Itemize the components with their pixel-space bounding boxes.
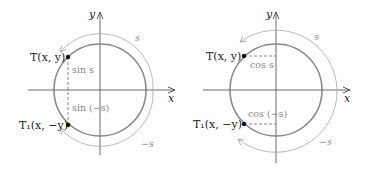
x-axis-label: x: [168, 92, 175, 105]
x-axis-label: x: [344, 92, 351, 105]
arc-minus-s: [60, 90, 153, 146]
label-cos-minus-s: cos (−s): [248, 108, 287, 119]
label-T: T(x, y): [30, 51, 65, 64]
label-T: T(x, y): [206, 50, 241, 63]
label-sin-minus-s: sin (−s): [72, 102, 109, 113]
label-T1: T₁(x, −y): [193, 118, 242, 131]
label-arc-minus-s: −s: [141, 138, 154, 149]
label-arc-s: s: [314, 31, 319, 42]
cosine-diagram: y x T(x, y) T₁(x, −y) cos s cos (−s) s −…: [193, 8, 351, 163]
label-sin-s: sin s: [72, 64, 94, 75]
point-T: [242, 54, 246, 58]
y-axis-label: y: [265, 8, 273, 21]
label-arc-minus-s: −s: [319, 136, 332, 147]
point-T: [66, 55, 70, 59]
label-arc-s: s: [135, 32, 140, 43]
label-T1: T₁(x, −y): [19, 119, 68, 132]
point-T1: [242, 122, 246, 126]
unit-circle-diagrams: y x T(x, y) T₁(x, −y) sin s sin (−s) s −…: [0, 0, 365, 175]
sine-diagram: y x T(x, y) T₁(x, −y) sin s sin (−s) s −…: [19, 8, 175, 155]
y-axis-label: y: [88, 8, 96, 21]
label-cos-s: cos s: [250, 59, 274, 70]
